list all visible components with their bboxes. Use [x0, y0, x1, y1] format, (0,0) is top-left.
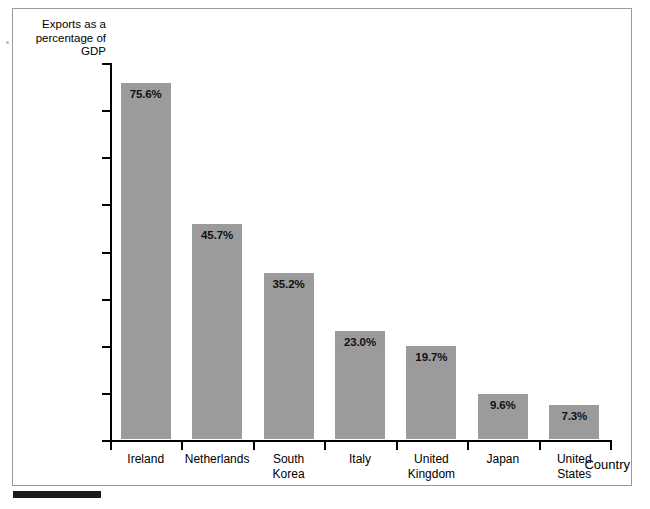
x-axis-line [110, 440, 612, 442]
plot-area: 01020304050607080 75.6%45.7%35.2%23.0%19… [110, 63, 610, 441]
x-axis-tick [467, 442, 469, 450]
x-axis-tick [610, 442, 612, 450]
x-axis-tick [396, 442, 398, 450]
x-axis-tick [253, 442, 255, 450]
x-axis-title: Country [584, 457, 630, 472]
x-axis-category-label: South Korea [253, 452, 324, 481]
y-axis-tick [102, 157, 110, 159]
y-axis-tick [102, 299, 110, 301]
y-axis-tick [102, 252, 110, 254]
x-axis-category-label: Italy [324, 452, 395, 467]
x-axis-category-label: Ireland [110, 452, 181, 467]
bar[interactable]: 7.3% [549, 405, 599, 439]
bar-value-label: 7.3% [549, 410, 599, 422]
bar-value-label: 23.0% [335, 336, 385, 348]
x-axis-category-label: Netherlands [181, 452, 252, 467]
y-axis-tick [102, 393, 110, 395]
bar-value-label: 9.6% [478, 399, 528, 411]
x-axis-tick [181, 442, 183, 450]
page-speck-artifact [6, 41, 9, 44]
y-axis-line [110, 63, 112, 442]
bar[interactable]: 23.0% [335, 331, 385, 439]
y-axis-tick [102, 346, 110, 348]
x-axis-tick [539, 442, 541, 450]
x-axis-tick [324, 442, 326, 450]
x-axis-category-label: United Kingdom [396, 452, 467, 481]
bar[interactable]: 35.2% [264, 273, 314, 439]
bar-value-label: 45.7% [192, 229, 242, 241]
x-axis-tick [110, 442, 112, 450]
y-axis-tick [102, 204, 110, 206]
bar[interactable]: 75.6% [121, 83, 171, 439]
bar[interactable]: 9.6% [478, 394, 528, 439]
y-axis-title: Exports as a percentage of GDP [18, 18, 106, 59]
bottom-marker-bar [13, 491, 101, 498]
x-axis-category-label: Japan [467, 452, 538, 467]
y-axis-tick [102, 440, 110, 442]
bar-value-label: 19.7% [406, 351, 456, 363]
bar[interactable]: 45.7% [192, 224, 242, 439]
y-axis-tick [102, 110, 110, 112]
y-axis-tick [102, 63, 110, 65]
bar-value-label: 35.2% [264, 278, 314, 290]
bar[interactable]: 19.7% [406, 346, 456, 439]
bar-value-label: 75.6% [121, 88, 171, 100]
